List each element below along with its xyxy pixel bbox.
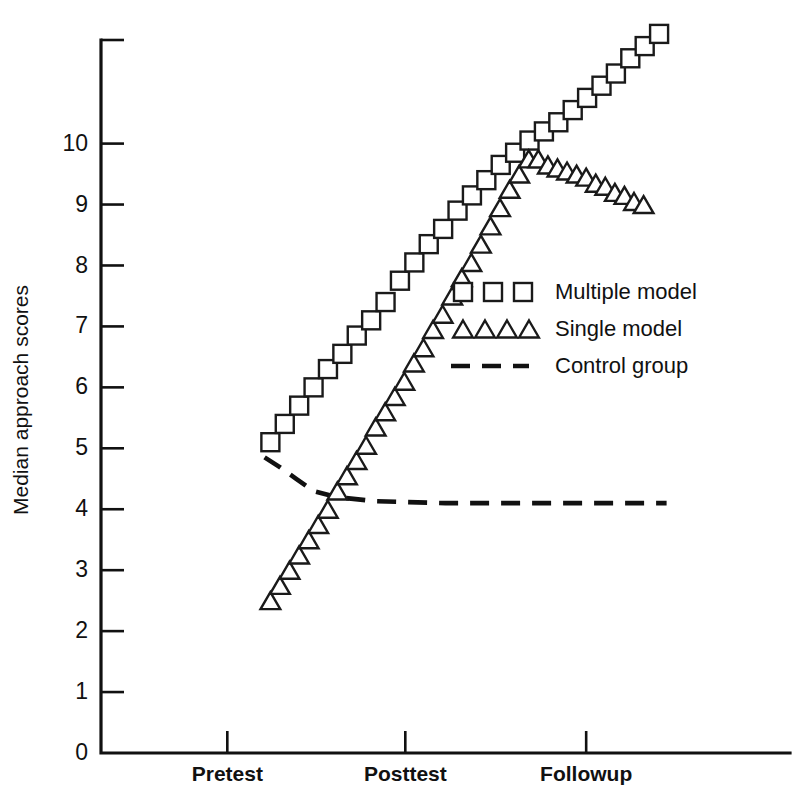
y-axis-tick-label: 7 — [75, 312, 88, 338]
data-point-square — [514, 283, 532, 301]
y-axis-tick-label: 10 — [62, 130, 88, 156]
axis-lines — [101, 40, 790, 753]
y-axis-title: Median approach scores — [9, 285, 32, 515]
legend-label: Control group — [555, 353, 688, 378]
series-multiple-model — [261, 25, 668, 451]
data-point-triangle — [461, 254, 481, 271]
data-point-triangle — [471, 236, 491, 253]
y-axis-tick-label: 9 — [75, 191, 88, 217]
y-axis-tick-label: 8 — [75, 252, 88, 278]
y-axis-tick-labels: 012345678910 — [62, 130, 88, 765]
y-axis-tick-label: 5 — [75, 434, 88, 460]
data-point-square — [276, 415, 294, 433]
data-point-square — [650, 25, 668, 43]
data-point-triangle — [519, 321, 539, 338]
median-approach-scores-chart: Median approach scores 012345678910 Pret… — [0, 0, 794, 794]
data-point-triangle — [475, 321, 495, 338]
x-axis-tick-label: Pretest — [192, 762, 263, 785]
data-point-square — [405, 253, 423, 271]
data-point-triangle — [453, 321, 473, 338]
data-point-triangle — [497, 321, 517, 338]
x-axis-tick-label: Followup — [540, 762, 632, 785]
data-point-triangle — [394, 373, 414, 390]
data-point-square — [484, 283, 502, 301]
x-axis-tick-labels: PretestPosttestFollowup — [192, 762, 633, 785]
data-point-triangle — [433, 306, 453, 323]
y-axis-tick-label: 1 — [75, 678, 88, 704]
data-point-square — [333, 345, 351, 363]
legend-label: Multiple model — [555, 279, 697, 304]
y-axis-tick-label: 6 — [75, 373, 88, 399]
data-point-triangle — [490, 199, 510, 216]
data-point-triangle — [481, 217, 501, 234]
data-point-triangle — [356, 437, 376, 454]
data-point-square — [391, 272, 409, 290]
chart-legend: Multiple modelSingle modelControl group — [451, 279, 697, 378]
data-point-square — [362, 311, 380, 329]
y-axis-tick-label: 3 — [75, 556, 88, 582]
chart-page: Median approach scores 012345678910 Pret… — [0, 0, 794, 794]
data-point-square — [434, 220, 452, 238]
y-axis-tick-label: 2 — [75, 617, 88, 643]
control-group-dashed-line — [265, 457, 667, 503]
y-axis-tick-label: 0 — [75, 739, 88, 765]
data-point-triangle — [318, 501, 338, 518]
x-axis-tick-label: Posttest — [364, 762, 447, 785]
y-axis-ticks — [101, 144, 124, 692]
series-control-group — [265, 457, 667, 503]
data-point-square — [305, 378, 323, 396]
x-axis-ticks — [227, 731, 586, 753]
data-point-square — [377, 293, 395, 311]
legend-label: Single model — [555, 316, 682, 341]
data-point-square — [261, 433, 279, 451]
data-point-square — [290, 397, 308, 415]
data-point-triangle — [414, 339, 434, 356]
y-axis-tick-label: 4 — [75, 495, 88, 521]
data-point-square — [454, 283, 472, 301]
